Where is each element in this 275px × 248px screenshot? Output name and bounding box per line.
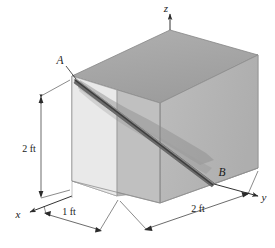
x-axis-label: x — [15, 208, 21, 220]
point-B-label: B — [218, 166, 225, 178]
z-axis-label: z — [163, 2, 169, 14]
point-A-label: A — [55, 54, 64, 66]
dimension-depth-label: 1 ft — [62, 206, 76, 217]
label-A-leader — [66, 66, 76, 79]
dimension-width-label: 2 ft — [191, 203, 205, 214]
box-diagram-svg: z y x A B 2 ft 1 ft 2 ft — [0, 0, 275, 248]
dimension-height-2ft — [39, 80, 70, 198]
dimension-depth-1ft — [44, 200, 118, 233]
y-axis-label: y — [261, 191, 267, 203]
figure-container: z y x A B 2 ft 1 ft 2 ft — [0, 0, 275, 248]
dimension-height-label: 2 ft — [22, 143, 36, 154]
